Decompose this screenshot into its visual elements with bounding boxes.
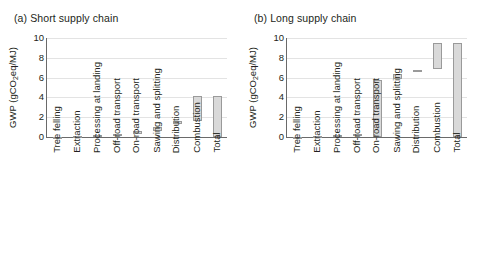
x-label-text: Distribution: [411, 105, 422, 153]
panel-b-x-labels: Tree fellingExtractionProcessing at land…: [286, 140, 466, 254]
x-label-text: Off-road transport: [351, 78, 362, 153]
x-label-total: Total: [446, 140, 466, 252]
x-label-text: Off-road transport: [111, 78, 122, 153]
x-label-text: Extraction: [310, 111, 321, 153]
x-label-text: Tree felling: [51, 106, 62, 153]
x-label-text: On-road transport: [370, 78, 381, 153]
x-label-sawing-and-splitting: Sawing and splitting: [146, 140, 166, 252]
x-label-text: Processing at landing: [90, 62, 101, 153]
x-label-tree-felling: Tree felling: [46, 140, 66, 252]
x-label-combustion: Combustion: [426, 140, 446, 252]
x-label-text: Tree felling: [291, 106, 302, 153]
y-tick-2: 2: [258, 112, 284, 122]
x-label-text: Total: [210, 133, 221, 153]
y-tick-10: 10: [18, 33, 44, 43]
y-tick-6: 6: [258, 73, 284, 83]
bar-distribution: [413, 70, 422, 72]
x-label-combustion: Combustion: [186, 140, 206, 252]
x-label-off-road-transport: Off-road transport: [346, 140, 366, 252]
bar-combustion: [433, 43, 442, 69]
panel-b-y-ticks: 10 8 6 4 2 0: [252, 38, 284, 137]
x-label-total: Total: [206, 140, 226, 252]
x-label-tree-felling: Tree felling: [286, 140, 306, 252]
y-tick-6: 6: [18, 73, 44, 83]
x-label-text: Extraction: [70, 111, 81, 153]
panel-a-x-labels: Tree fellingExtractionProcessing at land…: [46, 140, 226, 254]
x-label-text: Combustion: [430, 102, 441, 153]
y-tick-0: 0: [18, 132, 44, 142]
x-label-text: Sawing and splitting: [391, 69, 402, 154]
x-label-on-road-transport: On-road transport: [126, 140, 146, 252]
panel-a-title: (a) Short supply chain: [14, 12, 118, 24]
x-label-distribution: Distribution: [166, 140, 186, 252]
panel-a-y-ticks: 10 8 6 4 2 0: [12, 38, 44, 137]
bar-total: [213, 96, 222, 137]
x-label-distribution: Distribution: [406, 140, 426, 252]
y-tick-8: 8: [18, 53, 44, 63]
x-label-text: Sawing and splitting: [151, 69, 162, 154]
x-label-text: Processing at landing: [330, 62, 341, 153]
x-label-text: On-road transport: [130, 78, 141, 153]
panel-long-supply-chain: (b) Long supply chain GWP (gCO2eq/MJ) 10…: [240, 0, 479, 258]
y-tick-4: 4: [258, 93, 284, 103]
x-label-sawing-and-splitting: Sawing and splitting: [386, 140, 406, 252]
panel-short-supply-chain: (a) Short supply chain GWP (gCO2eq/MJ) 1…: [0, 0, 239, 258]
x-label-extraction: Extraction: [306, 140, 326, 252]
y-tick-0: 0: [258, 132, 284, 142]
x-label-off-road-transport: Off-road transport: [106, 140, 126, 252]
y-tick-4: 4: [18, 93, 44, 103]
bar-total: [453, 43, 462, 137]
y-tick-8: 8: [258, 53, 284, 63]
y-tick-2: 2: [18, 112, 44, 122]
x-label-processing-at-landing: Processing at landing: [326, 140, 346, 252]
figure-gwp-supply-chains: (a) Short supply chain GWP (gCO2eq/MJ) 1…: [0, 0, 479, 258]
x-label-text: Distribution: [171, 105, 182, 153]
x-label-text: Total: [450, 133, 461, 153]
y-tick-10: 10: [258, 33, 284, 43]
x-label-text: Combustion: [190, 102, 201, 153]
panel-b-title: (b) Long supply chain: [254, 12, 357, 24]
x-label-extraction: Extraction: [66, 140, 86, 252]
x-label-on-road-transport: On-road transport: [366, 140, 386, 252]
x-label-processing-at-landing: Processing at landing: [86, 140, 106, 252]
